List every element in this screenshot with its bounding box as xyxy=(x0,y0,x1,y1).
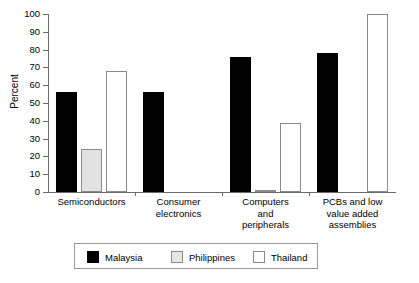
x-axis-category-label-line: PCBs and low xyxy=(309,196,396,208)
y-axis-tick-label: 0 xyxy=(10,185,40,198)
x-axis-category-label: Semiconductors xyxy=(48,196,135,208)
y-axis-tick-label: 80 xyxy=(10,43,40,56)
y-axis-tick-label: 20 xyxy=(10,149,40,162)
y-axis-tick-label: 40 xyxy=(10,114,40,127)
bar xyxy=(317,53,338,192)
y-axis-tick-label: 90 xyxy=(10,25,40,38)
legend-swatch xyxy=(171,251,183,263)
x-axis-category-label-line: value added xyxy=(309,208,396,220)
y-axis-tick-label: 60 xyxy=(10,78,40,91)
y-axis-tick: 100 xyxy=(43,14,48,15)
x-axis-category-label-line: peripherals xyxy=(222,219,309,231)
legend-item: Philippines xyxy=(171,244,235,270)
y-axis-line xyxy=(48,14,49,192)
bar xyxy=(255,190,276,192)
bar xyxy=(280,123,301,192)
x-axis-category-label-line: electronics xyxy=(135,208,222,220)
legend-label: Philippines xyxy=(189,252,235,263)
y-axis-tick-label: 100 xyxy=(10,7,40,20)
x-axis-category-label-line: and xyxy=(222,208,309,220)
y-axis-tick: 80 xyxy=(43,50,48,51)
legend-label: Thailand xyxy=(271,252,307,263)
y-axis-tick: 50 xyxy=(43,103,48,104)
y-axis-tick: 30 xyxy=(43,139,48,140)
x-axis-category-label-line: Consumer xyxy=(135,196,222,208)
bar xyxy=(143,92,164,192)
y-axis-tick-label: 50 xyxy=(10,96,40,109)
legend-item: Malaysia xyxy=(87,244,143,270)
y-axis-tick: 10 xyxy=(43,174,48,175)
x-axis-category-label-line: Semiconductors xyxy=(48,196,135,208)
bar xyxy=(81,149,102,192)
bar-chart-figure: Percent 0102030405060708090100 Semicondu… xyxy=(0,0,419,283)
x-axis-category-label-line: Computers xyxy=(222,196,309,208)
y-axis-tick: 60 xyxy=(43,85,48,86)
bar xyxy=(56,92,77,192)
x-axis-category-label: Computersandperipherals xyxy=(222,196,309,231)
bar xyxy=(106,71,127,192)
bar xyxy=(367,14,388,192)
y-axis-tick: 70 xyxy=(43,67,48,68)
x-axis-category-label: PCBs and lowvalue addedassemblies xyxy=(309,196,396,231)
y-axis-tick: 90 xyxy=(43,32,48,33)
legend-swatch xyxy=(87,251,99,263)
bar xyxy=(230,57,251,192)
y-axis-tick: 20 xyxy=(43,156,48,157)
plot-area: 0102030405060708090100 xyxy=(48,14,396,192)
x-axis-category-label-line: assemblies xyxy=(309,219,396,231)
y-axis-tick-label: 70 xyxy=(10,60,40,73)
legend-swatch xyxy=(253,251,265,263)
y-axis-tick-label: 10 xyxy=(10,167,40,180)
y-axis-tick-label: 30 xyxy=(10,132,40,145)
legend-label: Malaysia xyxy=(105,252,143,263)
y-axis-tick: 40 xyxy=(43,121,48,122)
y-axis-tick: 0 xyxy=(43,192,48,193)
x-axis-category-label: Consumerelectronics xyxy=(135,196,222,219)
legend-item: Thailand xyxy=(253,244,307,270)
legend: MalaysiaPhilippinesThailand xyxy=(74,243,318,269)
